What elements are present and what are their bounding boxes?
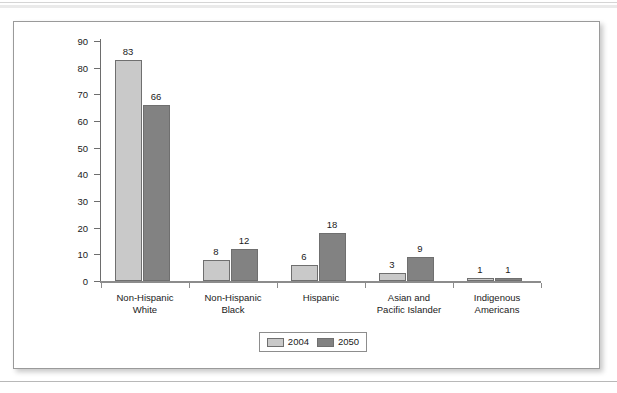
x-axis-tick: [541, 283, 542, 288]
category-label-line: Americans: [442, 304, 552, 316]
x-axis-tick: [277, 283, 278, 288]
legend-label: 2050: [338, 337, 359, 347]
legend-item-2004: 2004: [267, 337, 309, 347]
bar-2004-0: [115, 60, 142, 281]
bar-value-label: 8: [201, 247, 231, 257]
y-axis-tick: [94, 68, 100, 69]
bar-2004-2: [291, 265, 318, 281]
y-axis-tick-label: 80: [58, 63, 88, 74]
bar-2050-3: [407, 257, 434, 281]
bar-2050-0: [143, 105, 170, 281]
legend-label: 2004: [288, 337, 309, 347]
bar-value-label: 3: [377, 260, 407, 270]
x-axis-line: [100, 281, 541, 283]
legend-item-2050: 2050: [317, 337, 359, 347]
bar-value-label: 18: [317, 220, 347, 230]
x-axis-tick: [365, 283, 366, 288]
y-axis-tick-label: 70: [58, 89, 88, 100]
plot-area: 83668126183911: [101, 41, 541, 281]
bar-2004-3: [379, 273, 406, 281]
chart-legend: 20042050: [259, 332, 367, 352]
y-axis-tick: [94, 281, 100, 282]
bar-value-label: 1: [493, 265, 523, 275]
x-axis-tick: [101, 283, 102, 288]
bar-2050-4: [495, 278, 522, 281]
y-axis-tick: [94, 121, 100, 122]
page-rule-bottom: [0, 381, 617, 382]
y-axis-tick: [94, 94, 100, 95]
bar-value-label: 1: [465, 265, 495, 275]
y-axis-tick: [94, 148, 100, 149]
y-axis-tick: [94, 228, 100, 229]
y-axis-tick-label: 30: [58, 196, 88, 207]
y-axis-tick-label: 50: [58, 143, 88, 154]
bar-2050-1: [231, 249, 258, 281]
category-label-4: IndigenousAmericans: [442, 292, 552, 316]
y-axis-tick-label: 0: [58, 276, 88, 287]
y-axis-tick-label: 40: [58, 169, 88, 180]
category-label-line: Indigenous: [442, 292, 552, 304]
y-axis: 0102030405060708090: [14, 22, 101, 300]
legend-swatch-icon: [317, 338, 334, 347]
bar-2004-1: [203, 260, 230, 281]
bar-2050-2: [319, 233, 346, 281]
x-axis-tick: [453, 283, 454, 288]
y-axis-tick: [94, 201, 100, 202]
bar-value-label: 83: [113, 47, 143, 57]
bar-value-label: 6: [289, 252, 319, 262]
y-axis-tick-label: 60: [58, 116, 88, 127]
bar-2004-4: [467, 278, 494, 281]
page-rule-top: [0, 2, 617, 3]
y-axis-tick: [94, 41, 100, 42]
bar-value-label: 12: [229, 236, 259, 246]
bar-value-label: 9: [405, 244, 435, 254]
legend-swatch-icon: [267, 338, 284, 347]
y-axis-tick: [94, 174, 100, 175]
page-rule-top-shadow: [0, 5, 617, 8]
chart-figure-frame: 0102030405060708090 83668126183911 Non-H…: [13, 21, 600, 369]
category-label-line: Black: [178, 304, 288, 316]
y-axis-tick: [94, 254, 100, 255]
y-axis-tick-label: 20: [58, 223, 88, 234]
x-axis-tick: [189, 283, 190, 288]
y-axis-tick-label: 90: [58, 36, 88, 47]
bar-value-label: 66: [141, 92, 171, 102]
y-axis-tick-label: 10: [58, 249, 88, 260]
